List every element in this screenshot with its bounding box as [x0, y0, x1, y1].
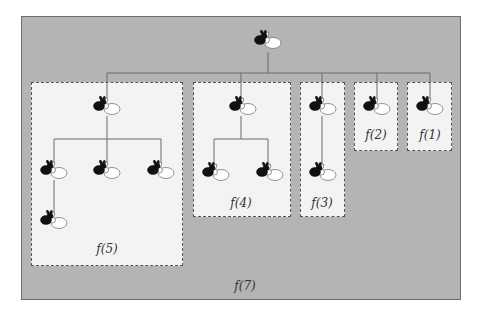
rabbit-pair-icon: [253, 30, 283, 50]
rabbit-pair-icon: [92, 160, 122, 180]
box-label-f3: f(3): [311, 196, 332, 210]
box-label-f5: f(5): [96, 242, 117, 256]
rabbit-pair-icon: [92, 96, 122, 116]
rabbit-pair-icon: [362, 96, 392, 116]
box-label-f1: f(1): [419, 128, 440, 142]
rabbit-pair-icon: [308, 162, 338, 182]
rabbit-pair-icon: [39, 160, 69, 180]
rabbit-pair-icon: [308, 96, 338, 116]
rabbit-pair-icon: [39, 210, 69, 230]
f7-label: f(7): [234, 279, 255, 293]
box-label-f2: f(2): [365, 128, 386, 142]
rabbit-pair-icon: [146, 160, 176, 180]
rabbit-pair-icon: [255, 162, 285, 182]
rabbit-pair-icon: [228, 96, 258, 116]
box-label-f4: f(4): [230, 196, 251, 210]
rabbit-pair-icon: [415, 96, 445, 116]
rabbit-pair-icon: [201, 162, 231, 182]
